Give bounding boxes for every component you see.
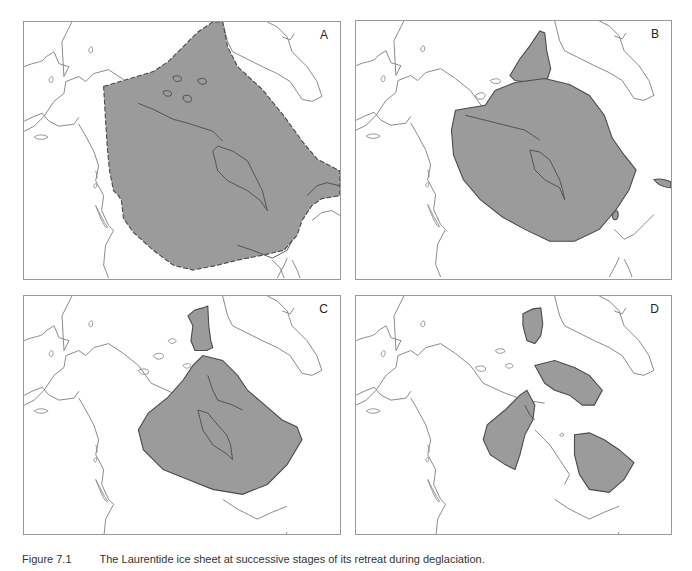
ice-sheet-extent-c-north xyxy=(188,306,213,351)
ice-sheet-extent-d-baffin xyxy=(535,360,602,405)
panel-label-c: C xyxy=(319,302,328,316)
ice-sheet-extent-d-west xyxy=(483,390,535,469)
ice-sheet-extent-a xyxy=(104,22,340,270)
map-panel-c: C xyxy=(23,295,341,535)
panel-label-a: A xyxy=(320,28,328,42)
map-a xyxy=(24,22,340,279)
map-panel-a: A xyxy=(23,21,341,280)
panel-label-b: B xyxy=(651,27,659,41)
map-d xyxy=(356,296,671,534)
map-panel-d: D xyxy=(355,295,672,535)
caption-text: The Laurentide ice sheet at successive s… xyxy=(100,553,485,565)
map-b xyxy=(356,21,671,279)
ice-sheet-extent-c xyxy=(138,356,302,495)
panel-label-d: D xyxy=(650,302,659,316)
ice-sheet-extent-d-north xyxy=(523,308,543,344)
map-c xyxy=(24,296,340,534)
figure-caption: Figure 7.1The Laurentide ice sheet at su… xyxy=(22,553,485,565)
ice-sheet-extent-b-north xyxy=(510,31,551,83)
map-panel-b: B xyxy=(355,20,672,280)
figure-number: Figure 7.1 xyxy=(22,553,72,565)
ice-sheet-extent-d-east xyxy=(574,433,634,493)
